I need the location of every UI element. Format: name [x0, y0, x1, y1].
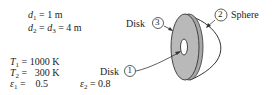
disk-1-hole: [181, 39, 188, 55]
label-sphere-2: Sphere: [231, 10, 259, 20]
arrow-disk-3: [168, 27, 173, 31]
label-sphere-2-number: 2: [218, 10, 223, 19]
label-disk-3-number: 3: [155, 18, 160, 27]
label-disk-1-number: 1: [128, 66, 133, 75]
label-disk-1: Disk: [100, 67, 119, 77]
label-disk-3: Disk: [126, 19, 145, 29]
